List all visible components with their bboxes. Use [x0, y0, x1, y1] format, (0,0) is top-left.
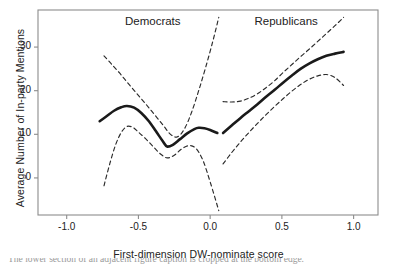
x-tick-label: -1.0	[47, 221, 87, 232]
y-tick-label: 20	[0, 84, 31, 95]
figure-container: First-dimension DW-nominate score Averag…	[0, 0, 397, 265]
y-tick-label: 30	[0, 40, 31, 51]
y-tick-label: 0	[0, 171, 31, 182]
y-tick-label: 10	[0, 127, 31, 138]
cropped-caption-strip: The lower section of an adjacent figure …	[0, 258, 397, 265]
x-tick-label: -0.5	[118, 221, 158, 232]
x-tick-label: 1.0	[334, 221, 374, 232]
x-tick-label: 0.5	[262, 221, 302, 232]
annotation-republicans: Republicans	[255, 15, 318, 27]
annotation-democrats: Democrats	[125, 15, 181, 27]
caption-text: The lower section of an adjacent figure …	[8, 258, 304, 264]
x-tick-label: 0.0	[190, 221, 230, 232]
